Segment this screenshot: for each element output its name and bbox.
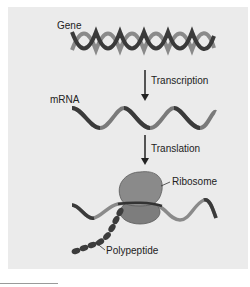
ribosome-icon xyxy=(118,172,162,224)
translation-label: Translation xyxy=(151,144,200,154)
translation-arrow-icon xyxy=(141,135,149,165)
gene-label: Gene xyxy=(57,21,81,31)
mrna-strand-icon xyxy=(72,108,216,128)
mrna-label: mRNA xyxy=(50,95,79,105)
transcription-arrow-icon xyxy=(141,70,149,101)
dna-double-helix-icon xyxy=(72,32,214,50)
polypeptide-label: Polypeptide xyxy=(106,246,158,256)
gene-expression-illustration xyxy=(0,0,250,287)
ribosome-label: Ribosome xyxy=(172,177,217,187)
transcription-label: Transcription xyxy=(151,76,208,86)
